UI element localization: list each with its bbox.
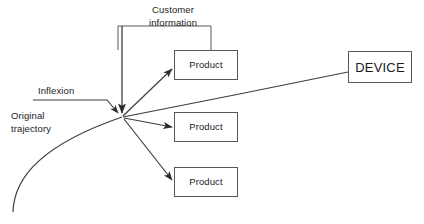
inflexion-label: Inflexion <box>38 85 74 98</box>
original-trajectory-line-1: Original <box>11 110 87 123</box>
product-box-1[interactable]: Product <box>174 50 238 80</box>
customer-information-line-2: information <box>130 17 216 30</box>
original-trajectory-label: Original trajectory <box>11 110 87 135</box>
device-box-label: DEVICE <box>355 61 405 74</box>
device-box[interactable]: DEVICE <box>348 51 412 83</box>
diagram-canvas: Customer information Inflexion Original … <box>0 0 424 224</box>
product-box-1-label: Product <box>189 60 222 70</box>
customer-information-label: Customer information <box>130 4 216 29</box>
customer-information-bracket <box>118 26 211 50</box>
product-box-2-label: Product <box>189 122 222 132</box>
branch-to-product-3 <box>124 119 172 180</box>
product-box-2[interactable]: Product <box>174 112 238 142</box>
product-box-3[interactable]: Product <box>174 167 238 197</box>
original-trajectory-line-2: trajectory <box>11 123 87 136</box>
customer-information-line-1: Customer <box>130 4 216 17</box>
branch-to-product-2 <box>124 118 172 127</box>
product-box-3-label: Product <box>189 177 222 187</box>
